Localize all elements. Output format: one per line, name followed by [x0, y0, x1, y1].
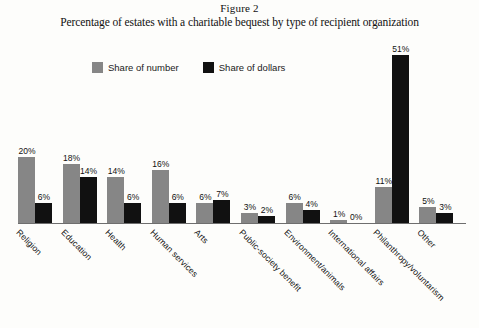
bar-value-label: 7% — [205, 189, 239, 199]
bar[interactable] — [35, 203, 52, 223]
x-axis-label: Arts — [193, 227, 211, 245]
bar-column[interactable]: 4% — [303, 42, 320, 223]
bar-column[interactable]: 3% — [241, 42, 258, 223]
bar-column[interactable]: 7% — [213, 42, 230, 223]
bar-group: 6%7% — [196, 42, 230, 223]
bar-column[interactable]: 0% — [347, 42, 364, 223]
bar[interactable] — [196, 203, 213, 223]
bar-column[interactable]: 18% — [63, 42, 80, 223]
x-axis-label: Religion — [14, 227, 44, 257]
bar-column[interactable]: 6% — [124, 42, 141, 223]
bar[interactable] — [258, 216, 275, 223]
x-axis-label: Health — [104, 227, 129, 252]
bar-column[interactable]: 6% — [169, 42, 186, 223]
figure-title-block: Figure 2 Percentage of estates with a ch… — [0, 2, 479, 29]
bar-column[interactable]: 5% — [419, 42, 436, 223]
bar-group: 5%3% — [419, 42, 453, 223]
bar-column[interactable]: 6% — [286, 42, 303, 223]
bar[interactable] — [375, 187, 392, 223]
bar-column[interactable]: 1% — [330, 42, 347, 223]
bar-value-label: 2% — [250, 205, 284, 215]
x-axis-baseline — [18, 223, 466, 224]
bar-group: 6%4% — [286, 42, 320, 223]
bar[interactable] — [303, 210, 320, 223]
x-axis-label: Education — [59, 227, 94, 262]
bar[interactable] — [124, 203, 141, 223]
bar-column[interactable]: 51% — [392, 42, 409, 223]
bar[interactable] — [169, 203, 186, 223]
bar-column[interactable]: 14% — [80, 42, 97, 223]
bar[interactable] — [80, 177, 97, 223]
bar-column[interactable]: 11% — [375, 42, 392, 223]
bar-value-label: 6% — [116, 192, 150, 202]
x-axis-category-labels: ReligionEducationHealthHuman servicesArt… — [18, 226, 466, 326]
bar[interactable] — [213, 200, 230, 223]
bar-group: 14%6% — [107, 42, 141, 223]
bar-value-label: 6% — [27, 192, 61, 202]
x-axis-label: Philanthropy/voluntarism — [371, 227, 446, 302]
bar-value-label: 3% — [428, 202, 462, 212]
bar-column[interactable]: 2% — [258, 42, 275, 223]
bar[interactable] — [436, 213, 453, 223]
bar-value-label: 51% — [384, 44, 418, 54]
bar-group: 11%51% — [375, 42, 409, 223]
plot-area: 20%6%18%14%14%6%16%6%6%7%3%2%6%4%1%0%11%… — [18, 42, 466, 223]
bar-column[interactable]: 3% — [436, 42, 453, 223]
bar-group: 20%6% — [18, 42, 52, 223]
bar-column[interactable]: 6% — [35, 42, 52, 223]
bar[interactable] — [392, 55, 409, 223]
figure-2-chart: Figure 2 Percentage of estates with a ch… — [0, 0, 479, 328]
figure-number: Figure 2 — [0, 2, 479, 15]
bar[interactable] — [18, 157, 35, 223]
bar-value-label: 0% — [339, 212, 373, 222]
figure-title: Percentage of estates with a charitable … — [0, 15, 479, 29]
bar-group: 1%0% — [330, 42, 364, 223]
x-axis-label: Other — [416, 227, 439, 250]
bar-group: 18%14% — [63, 42, 97, 223]
bar-value-label: 4% — [295, 199, 329, 209]
bar-group: 3%2% — [241, 42, 275, 223]
bar-group: 16%6% — [152, 42, 186, 223]
